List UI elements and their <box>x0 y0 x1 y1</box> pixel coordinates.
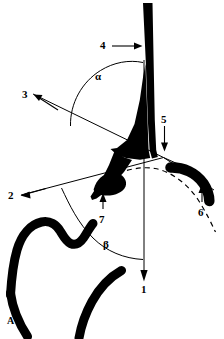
label-5: 5 <box>161 114 167 125</box>
label-6: 6 <box>198 207 204 218</box>
anatomy-solid-shapes <box>11 3 210 338</box>
arrowhead-2 <box>21 192 31 199</box>
arrowhead-5 <box>161 143 168 152</box>
arrowhead-1 <box>140 270 147 282</box>
label-1: 1 <box>141 284 147 295</box>
arrowhead-4 <box>134 42 143 49</box>
angle-alpha-arc <box>70 61 143 126</box>
femoral-shaft-curve <box>79 271 122 339</box>
figure-root: 1 2 3 4 5 6 7 α β A <box>0 0 224 339</box>
pelvic-outline-curve <box>11 222 94 295</box>
label-angle-beta: β <box>103 239 109 250</box>
curved-black-rod <box>171 167 210 201</box>
panel-letter-label: A <box>7 316 14 326</box>
anatomical-diagram-svg <box>0 0 224 339</box>
label-2: 2 <box>8 190 14 201</box>
label-7: 7 <box>99 214 105 225</box>
label-angle-alpha: α <box>95 71 101 82</box>
label-3: 3 <box>22 89 28 100</box>
label-4: 4 <box>100 40 106 51</box>
